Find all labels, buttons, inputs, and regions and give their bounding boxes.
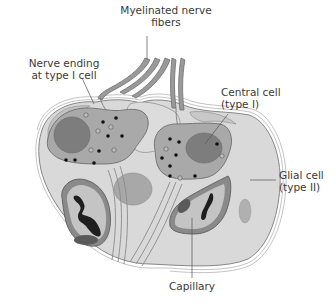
carotid-body-diagram	[0, 0, 335, 305]
label-glial-line2: (type II)	[279, 181, 335, 193]
type-i-nucleus	[186, 133, 222, 163]
glial-nucleus	[239, 199, 251, 223]
label-myelinated-nerve-fibers: Myelinated nerve fibers	[111, 4, 221, 28]
label-central-line2: (type I)	[221, 98, 297, 110]
label-nerve-ending: Nerve ending at type I cell	[16, 57, 112, 81]
endothelial-nucleus	[74, 235, 98, 245]
label-nerve-ending-line1: Nerve ending	[16, 57, 112, 69]
label-myelinated-line1: Myelinated nerve	[111, 4, 221, 16]
label-capillary-text: Capillary	[162, 280, 222, 292]
label-nerve-ending-line2: at type I cell	[16, 69, 112, 81]
label-glial-line1: Glial cell	[279, 169, 335, 181]
label-central-cell: Central cell (type I)	[221, 86, 297, 110]
label-capillary: Capillary	[162, 280, 222, 292]
label-glial-cell: Glial cell (type II)	[279, 169, 335, 193]
label-central-line1: Central cell	[221, 86, 297, 98]
type-i-nucleus	[54, 117, 90, 153]
label-myelinated-line2: fibers	[111, 16, 221, 28]
